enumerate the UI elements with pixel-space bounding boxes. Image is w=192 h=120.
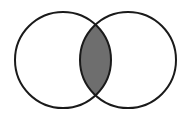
venn-diagram [0, 0, 192, 120]
